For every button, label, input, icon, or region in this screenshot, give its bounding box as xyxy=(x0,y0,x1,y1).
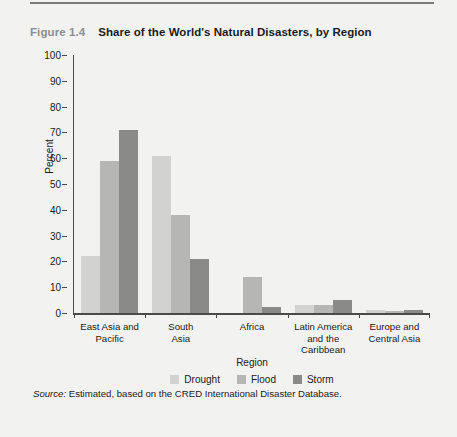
bar-flood[interactable] xyxy=(314,305,333,313)
x-axis-tick-mark xyxy=(429,313,430,318)
bar-storm[interactable] xyxy=(262,307,281,313)
y-axis-tick-label: 80 xyxy=(31,101,61,112)
bar-group xyxy=(145,55,216,313)
legend-item-storm[interactable]: Storm xyxy=(293,374,334,385)
x-axis-category-label: Europe andCentral Asia xyxy=(359,321,430,356)
x-axis-category-label: East Asia andPacific xyxy=(74,321,145,356)
chart-plot-area: Percent 0102030405060708090100 East Asia… xyxy=(33,55,433,315)
top-divider-rule xyxy=(30,2,434,4)
source-note: Source: Estimated, based on the CRED Int… xyxy=(33,388,433,399)
y-axis-tick-label: 30 xyxy=(31,230,61,241)
y-axis-tick-label: 70 xyxy=(31,127,61,138)
y-axis-tick-label: 0 xyxy=(31,308,61,319)
y-axis-tick-mark xyxy=(62,81,67,82)
x-axis-title: Region xyxy=(74,357,430,368)
legend-label: Storm xyxy=(307,374,334,385)
figure-title: Share of the World's Natural Disasters, … xyxy=(98,26,371,38)
legend-swatch-icon xyxy=(237,375,246,384)
bar-drought[interactable] xyxy=(152,156,171,313)
legend-swatch-icon xyxy=(293,375,302,384)
bar-group xyxy=(359,55,430,313)
bar-flood[interactable] xyxy=(243,277,262,313)
x-axis-tick-mark xyxy=(288,313,289,318)
y-axis-tick-label: 40 xyxy=(31,204,61,215)
source-label: Source: xyxy=(33,388,66,399)
y-axis-tick-mark xyxy=(62,236,67,237)
bar-storm[interactable] xyxy=(190,259,209,313)
figure-number: Figure 1.4 xyxy=(30,26,85,38)
y-axis-tick-mark xyxy=(62,287,67,288)
y-axis-tick-label: 10 xyxy=(31,282,61,293)
x-axis-tick-mark xyxy=(74,313,75,318)
y-axis-tick-mark xyxy=(62,261,67,262)
y-axis-tick-mark xyxy=(62,184,67,185)
source-text: Estimated, based on the CRED Internation… xyxy=(66,388,342,399)
bar-flood[interactable] xyxy=(385,311,404,313)
y-axis-tick-label: 50 xyxy=(31,179,61,190)
x-axis-category-label: SouthAsia xyxy=(145,321,216,356)
y-axis-tick-mark xyxy=(62,313,67,314)
x-axis-line xyxy=(73,313,430,315)
x-axis-tick-mark xyxy=(359,313,360,318)
y-axis-tick-label: 100 xyxy=(31,50,61,61)
y-axis-tick-mark xyxy=(62,132,67,133)
chart-legend: DroughtFloodStorm xyxy=(74,374,430,385)
x-axis-tick-mark xyxy=(145,313,146,318)
legend-swatch-icon xyxy=(170,375,179,384)
bar-groups xyxy=(74,55,430,313)
bar-storm[interactable] xyxy=(119,130,138,313)
legend-label: Flood xyxy=(251,374,276,385)
y-axis-tick-mark xyxy=(62,210,67,211)
bar-flood[interactable] xyxy=(171,215,190,313)
y-axis-tick-mark xyxy=(62,158,67,159)
bar-group xyxy=(216,55,287,313)
y-axis-tick-label: 20 xyxy=(31,256,61,267)
bar-drought[interactable] xyxy=(366,310,385,313)
bar-group xyxy=(74,55,145,313)
legend-label: Drought xyxy=(184,374,220,385)
bar-drought[interactable] xyxy=(295,305,314,313)
bar-storm[interactable] xyxy=(333,300,352,313)
x-axis-tick-mark xyxy=(216,313,217,318)
figure-title-row: Figure 1.4Share of the World's Natural D… xyxy=(30,22,440,40)
y-axis-ticks: 0102030405060708090100 xyxy=(33,55,67,313)
legend-item-flood[interactable]: Flood xyxy=(237,374,276,385)
x-axis-category-label: Africa xyxy=(216,321,287,356)
legend-item-drought[interactable]: Drought xyxy=(170,374,220,385)
y-axis-tick-label: 60 xyxy=(31,153,61,164)
bar-storm[interactable] xyxy=(404,310,423,313)
figure-panel: Figure 1.4Share of the World's Natural D… xyxy=(0,0,457,437)
bar-drought[interactable] xyxy=(81,256,100,313)
x-axis-category-labels: East Asia andPacificSouthAsiaAfricaLatin… xyxy=(74,321,430,356)
x-axis-category-label: Latin Americaand theCaribbean xyxy=(288,321,359,356)
y-axis-tick-label: 90 xyxy=(31,75,61,86)
bar-group xyxy=(288,55,359,313)
y-axis-tick-mark xyxy=(62,55,67,56)
bar-flood[interactable] xyxy=(100,161,119,313)
y-axis-tick-mark xyxy=(62,107,67,108)
